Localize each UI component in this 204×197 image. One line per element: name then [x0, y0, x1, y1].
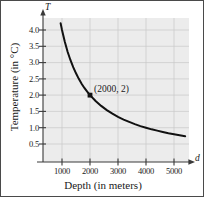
data-point-annotation: (2000, 2): [94, 84, 129, 94]
y-axis-variable-label: T: [45, 2, 50, 12]
x-axis-title: Depth (in meters): [1, 179, 204, 192]
data-point-marker: [88, 93, 93, 98]
data-curve-temperature: [61, 23, 186, 136]
chart-figure: 4.0 3.5 3.0 2.5 2.0 1.5 1.0 0.5 1000 200…: [0, 0, 204, 197]
y-axis: [40, 9, 45, 162]
y-axis-title: Temperature (in °C): [8, 12, 20, 162]
x-axis-tick-labels: 1000 2000 3000 4000 5000: [1, 167, 204, 179]
x-tick-label: 5000: [157, 167, 191, 176]
x-axis: [37, 159, 195, 164]
x-axis-variable-label: d: [195, 153, 200, 163]
